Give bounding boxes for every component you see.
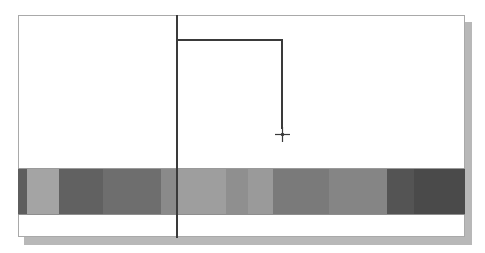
vertical-divider[interactable]	[176, 15, 178, 238]
band-segment	[226, 169, 248, 214]
band-segment	[59, 169, 103, 214]
grayscale-band	[18, 168, 465, 215]
band-segment	[414, 169, 465, 214]
band-segment	[387, 169, 414, 214]
band-segment	[329, 169, 387, 214]
connector-horizontal	[177, 39, 283, 41]
band-segment	[27, 169, 59, 214]
band-segment	[161, 169, 177, 214]
band-segment	[103, 169, 161, 214]
band-segment	[18, 169, 27, 214]
band-segment	[273, 169, 329, 214]
band-segment	[248, 169, 273, 214]
crosshair-icon	[275, 127, 290, 142]
band-segment	[177, 169, 226, 214]
connector-vertical	[281, 39, 283, 129]
